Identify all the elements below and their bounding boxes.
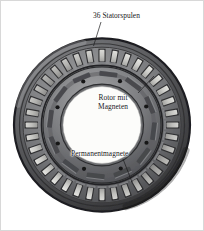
label-rotor-line2: Magneten	[85, 102, 141, 111]
label-stator-coils: 36 Statorspulen	[93, 11, 140, 20]
label-rotor-line1: Rotor mit	[85, 93, 141, 102]
label-rotor-with-magnets: Rotor mit Magneten	[85, 93, 141, 111]
motor-photo	[1, 1, 204, 231]
label-permanent-magnets: Permanentmagnete	[71, 149, 128, 158]
motor-cross-section-figure: 36 Statorspulen Rotor mit Magneten Perma…	[0, 0, 204, 231]
